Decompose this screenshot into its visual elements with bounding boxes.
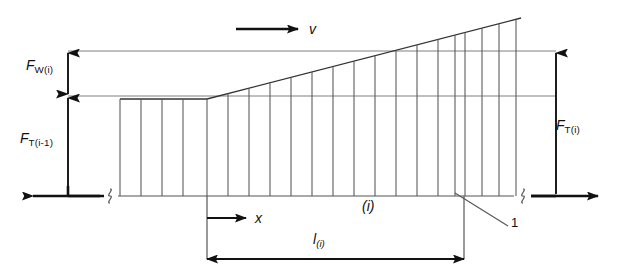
label-force-w-subscript: W(i) (35, 64, 54, 75)
label-force-t: FT(i) (556, 118, 580, 132)
label-section-index: (i) (362, 199, 374, 213)
break-symbol-right (522, 189, 525, 203)
callout-leader (455, 193, 508, 226)
force-diagram: FW(i) FT(i-1) FT(i) v x (i) l(i) 1 (0, 0, 625, 278)
label-coordinate-x: x (255, 211, 262, 225)
force-envelope (120, 18, 521, 99)
label-force-t-prev-subscript: T(i-1) (29, 137, 54, 148)
label-force-t-subscript: T(i) (565, 124, 581, 135)
label-callout-one: 1 (511, 216, 518, 229)
label-velocity: v (309, 22, 316, 36)
label-force-w-symbol: F (26, 57, 35, 73)
label-force-t-prev: FT(i-1) (20, 131, 53, 145)
label-force-t-prev-symbol: F (20, 130, 29, 146)
hatch-lines (120, 19, 516, 196)
label-length: l(i) (313, 232, 325, 246)
label-force-w: FW(i) (26, 58, 53, 72)
length-dimension-group (207, 196, 464, 259)
label-force-t-symbol: F (556, 117, 565, 133)
callout-leader-line (455, 193, 508, 226)
break-symbol-left (109, 189, 112, 203)
label-length-subscript: (i) (316, 238, 325, 249)
x-coordinate-group (207, 196, 246, 259)
